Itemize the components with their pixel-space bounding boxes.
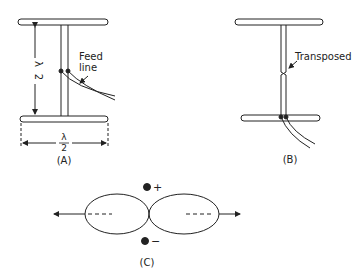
height-two: 2 [33, 74, 44, 80]
transposition [281, 72, 286, 75]
bottom-element [20, 116, 108, 122]
minus-label: − [151, 235, 160, 248]
caption-b: (B) [283, 154, 298, 165]
positive-charge [144, 184, 151, 191]
width-two: 2 [61, 143, 67, 153]
feed-line-a [61, 71, 115, 96]
height-lambda: λ [33, 61, 44, 67]
feed-arrow [80, 76, 88, 83]
lobe-left [85, 194, 149, 234]
feed-label-line2: line [79, 62, 97, 73]
feed-line-a [281, 117, 310, 148]
caption-a: (A) [57, 155, 72, 166]
caption-c: (C) [140, 257, 155, 268]
plus-label: + [153, 181, 162, 194]
figure-b [235, 19, 323, 148]
figure-c [54, 184, 240, 245]
feed-line-b [68, 71, 115, 100]
feed-label-line1: Feed [79, 51, 103, 62]
antenna-diagram: λ 2 λ 2 Feed line (A) Transposed (B) + −… [0, 0, 361, 280]
transposed-arrow [289, 61, 297, 68]
negative-charge [142, 238, 149, 245]
top-element [18, 19, 108, 25]
width-lambda: λ [61, 132, 67, 142]
top-element [235, 19, 323, 25]
transposed-label: Transposed [294, 51, 352, 62]
